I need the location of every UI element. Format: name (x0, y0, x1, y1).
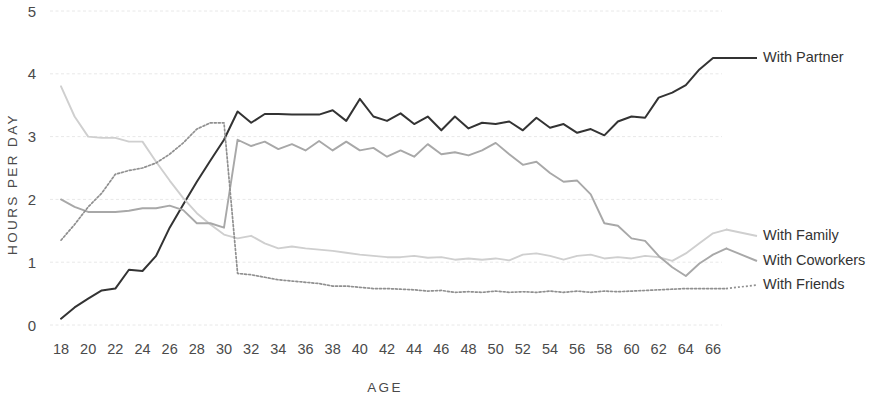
gridlines (50, 11, 722, 325)
x-axis-title: AGE (367, 380, 403, 395)
y-tick-label: 1 (28, 254, 36, 271)
x-tick-label: 64 (678, 341, 694, 357)
x-tick-label: 56 (569, 341, 585, 357)
x-tick-label: 28 (189, 341, 205, 357)
x-tick-label: 66 (705, 341, 721, 357)
x-tick-label: 50 (488, 341, 504, 357)
y-axis-title: HOURS PER DAY (5, 113, 20, 255)
legend-label-with-friends: With Friends (763, 276, 844, 292)
x-tick-label: 62 (651, 341, 667, 357)
legend-label-with-coworkers: With Coworkers (763, 252, 865, 268)
x-tick-label: 36 (297, 341, 313, 357)
x-axis-tick-labels: 1820222426283032343638404244464850525456… (53, 341, 721, 357)
y-tick-label: 0 (28, 317, 36, 334)
chart-canvas: 012345 182022242628303234363840424446485… (0, 0, 885, 403)
legend-label-with-partner: With Partner (763, 49, 844, 65)
y-axis-tick-labels: 012345 (28, 3, 36, 334)
legend: With PartnerWith FamilyWith CoworkersWit… (726, 49, 865, 292)
x-tick-label: 60 (623, 341, 639, 357)
x-tick-label: 26 (162, 341, 178, 357)
x-tick-label: 20 (80, 341, 96, 357)
x-tick-label: 38 (325, 341, 341, 357)
line-chart: 012345 182022242628303234363840424446485… (0, 0, 885, 403)
x-tick-label: 18 (53, 341, 69, 357)
x-tick-label: 34 (270, 341, 286, 357)
y-tick-label: 2 (28, 191, 36, 208)
x-tick-label: 30 (216, 341, 232, 357)
x-tick-label: 44 (406, 341, 422, 357)
series-line-with-partner (61, 58, 727, 319)
legend-connector-with-coworkers (726, 248, 757, 261)
x-tick-label: 48 (460, 341, 476, 357)
x-tick-label: 24 (134, 341, 150, 357)
x-tick-label: 22 (107, 341, 123, 357)
legend-connector-with-friends (726, 285, 757, 289)
x-tick-label: 32 (243, 341, 259, 357)
data-series-group (61, 58, 727, 319)
x-tick-label: 46 (433, 341, 449, 357)
x-tick-label: 54 (542, 341, 558, 357)
legend-connector-with-family (726, 230, 757, 236)
x-tick-label: 52 (515, 341, 531, 357)
y-tick-label: 5 (28, 3, 36, 20)
legend-label-with-family: With Family (763, 227, 839, 243)
x-tick-label: 58 (596, 341, 612, 357)
x-tick-label: 42 (379, 341, 395, 357)
y-tick-label: 4 (28, 65, 36, 82)
x-tick-label: 40 (352, 341, 368, 357)
y-tick-label: 3 (28, 128, 36, 145)
